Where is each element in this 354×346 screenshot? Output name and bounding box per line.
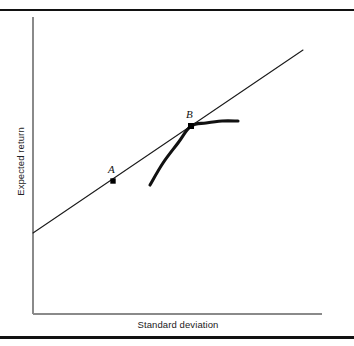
point-b-marker — [188, 123, 194, 129]
figure-container: A B Standard deviation Expected return — [0, 0, 354, 346]
point-a-marker — [110, 178, 115, 183]
point-a-label: A — [108, 164, 115, 175]
bottom-horizontal-rule — [0, 336, 354, 339]
y-axis-label: Expected return — [15, 102, 26, 222]
efficient-frontier-curve — [150, 121, 238, 185]
x-axis-label: Standard deviation — [33, 319, 323, 330]
capital-market-line — [33, 50, 303, 233]
point-b-label: B — [186, 109, 193, 120]
chart-canvas — [0, 0, 354, 346]
